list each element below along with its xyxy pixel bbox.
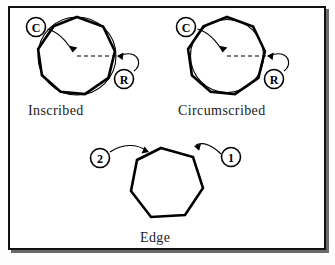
circumscribed-callout-c-label: C [182, 21, 191, 35]
inscribed-callout-c-label: C [32, 21, 41, 35]
inscribed-radius-arrowhead [117, 53, 124, 60]
inscribed-callout-r[interactable]: R [115, 70, 134, 89]
diagram-svg: C R C [0, 0, 335, 265]
edge-callout-1[interactable]: 1 [222, 148, 241, 167]
figure-canvas: C R C [0, 0, 335, 265]
panel-edge: 1 2 [91, 144, 241, 217]
edge-point2-arrowhead [142, 147, 150, 154]
inscribed-callout-c[interactable]: C [27, 18, 46, 37]
inscribed-callout-r-label: R [120, 73, 129, 87]
circumscribed-callout-r[interactable]: R [265, 70, 284, 89]
inscribed-center-leader [48, 29, 74, 52]
edge-point2-leader [110, 145, 147, 152]
circumscribed-radius-arrowhead [267, 53, 274, 60]
caption-inscribed: Inscribed [28, 103, 84, 119]
panel-circumscribed: C R [177, 17, 289, 94]
circumscribed-callout-r-label: R [270, 73, 279, 87]
edge-callout-2[interactable]: 2 [91, 149, 110, 168]
panel-inscribed: C R [27, 17, 139, 95]
edge-callout-1-label: 1 [228, 151, 234, 165]
circumscribed-callout-c[interactable]: C [177, 18, 196, 37]
edge-polygon [131, 148, 203, 217]
caption-edge: Edge [140, 230, 170, 246]
caption-circumscribed: Circumscribed [178, 103, 266, 119]
edge-callout-2-label: 2 [97, 152, 103, 166]
circumscribed-polygon [188, 17, 265, 94]
circumscribed-center-leader [198, 29, 224, 52]
